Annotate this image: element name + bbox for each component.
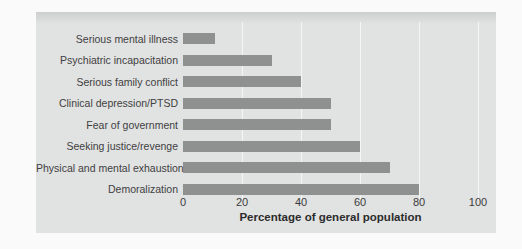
category-label: Psychiatric incapacitation: [36, 54, 183, 66]
bar: [183, 162, 390, 173]
x-tick-label: 80: [413, 196, 425, 208]
bar-track: [183, 98, 478, 109]
category-label: Serious family conflict: [36, 76, 183, 88]
bar: [183, 76, 301, 87]
x-tick-label: 20: [236, 196, 248, 208]
table-row: Serious family conflict: [36, 71, 478, 93]
x-axis-ticks: 020406080100: [183, 196, 478, 210]
table-row: Clinical depression/PTSD: [36, 93, 478, 115]
x-tick-label: 40: [295, 196, 307, 208]
bar-track: [183, 162, 478, 173]
category-label: Demoralization: [36, 183, 183, 195]
table-row: Seeking justice/revenge: [36, 136, 478, 158]
bar: [183, 33, 215, 44]
bar: [183, 98, 331, 109]
bar-track: [183, 141, 478, 152]
category-label: Seeking justice/revenge: [36, 140, 183, 152]
x-tick-label: 60: [354, 196, 366, 208]
figure: Serious mental illnessPsychiatric incapa…: [0, 0, 522, 249]
table-row: Fear of government: [36, 114, 478, 136]
category-label: Physical and mental exhaustion: [36, 162, 183, 174]
chart-panel: Serious mental illnessPsychiatric incapa…: [36, 12, 496, 233]
x-tick-label: 100: [469, 196, 487, 208]
bar: [183, 141, 360, 152]
table-row: Serious mental illness: [36, 28, 478, 50]
gridline: [478, 22, 479, 200]
bar-rows: Serious mental illnessPsychiatric incapa…: [36, 28, 478, 200]
category-label: Serious mental illness: [36, 33, 183, 45]
bar: [183, 119, 331, 130]
table-row: Physical and mental exhaustion: [36, 157, 478, 179]
category-label: Fear of government: [36, 119, 183, 131]
table-row: Psychiatric incapacitation: [36, 50, 478, 72]
category-label: Clinical depression/PTSD: [36, 97, 183, 109]
bar-track: [183, 184, 478, 195]
bar: [183, 184, 419, 195]
bar-track: [183, 119, 478, 130]
bar: [183, 55, 272, 66]
x-axis-label: Percentage of general population: [183, 211, 478, 223]
x-tick-label: 0: [180, 196, 186, 208]
bar-track: [183, 55, 478, 66]
bar-track: [183, 33, 478, 44]
bar-track: [183, 76, 478, 87]
